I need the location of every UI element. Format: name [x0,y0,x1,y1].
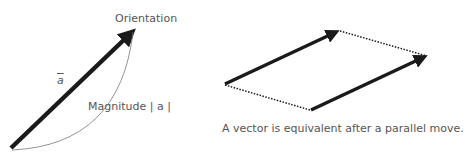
vector-a-arrow [11,34,130,148]
parallel-move-caption: A vector is equivalent after a parallel … [222,122,464,135]
dotted-connector-bottom [225,85,310,110]
moved-vector-arrow [311,58,422,110]
original-vector-arrow [225,33,334,84]
orientation-label: Orientation [115,12,177,25]
vector-symbol: a [57,74,64,87]
dotted-connector-top [340,31,427,56]
magnitude-label: Magnitude | a | [88,100,171,113]
magnitude-notation: | a | [150,100,171,113]
